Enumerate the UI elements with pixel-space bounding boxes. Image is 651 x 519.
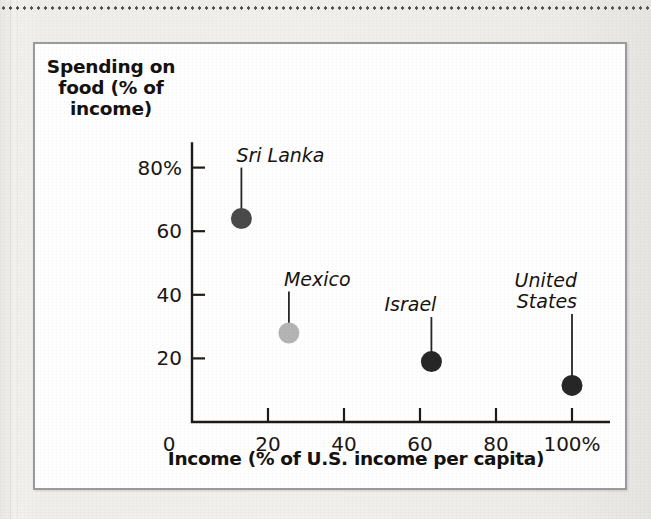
x-tick-label-0: 0 — [134, 432, 204, 456]
page-gutter-line — [10, 0, 11, 519]
page-gutter-line-secondary — [17, 0, 18, 519]
data-point-israel[interactable] — [421, 351, 442, 372]
y-tick-label-40: 40 — [92, 283, 182, 307]
data-point-sri-lanka[interactable] — [231, 208, 252, 229]
point-label-sri-lanka: Sri Lanka — [236, 145, 324, 166]
data-point-mexico[interactable] — [278, 322, 299, 343]
figure-frame: Spending onfood (% ofincome) Income (% o… — [33, 42, 627, 490]
page-background: Spending onfood (% ofincome) Income (% o… — [0, 0, 651, 519]
plot-area: 20406080%020406080100% Sri LankaMexicoIs… — [35, 44, 625, 488]
x-tick-label-40: 40 — [309, 432, 379, 456]
point-label-united-states: UnitedStates — [367, 270, 577, 312]
data-point-united-states[interactable] — [562, 375, 583, 396]
dotted-rule-decoration — [0, 5, 651, 11]
x-tick-label-60: 60 — [385, 432, 455, 456]
x-tick-label-100%: 100% — [537, 432, 607, 456]
x-tick-label-20: 20 — [233, 432, 303, 456]
point-label-mexico: Mexico — [284, 269, 351, 290]
y-tick-label-60: 60 — [92, 219, 182, 243]
x-tick-label-80: 80 — [461, 432, 531, 456]
point-label-sri-lanka-line-1: Sri Lanka — [236, 145, 324, 166]
point-label-united-states-line-2: States — [367, 291, 577, 312]
y-tick-label-20: 20 — [92, 346, 182, 370]
point-label-mexico-line-1: Mexico — [284, 269, 351, 290]
y-tick-label-80%: 80% — [92, 156, 182, 180]
point-label-united-states-line-1: United — [367, 270, 577, 291]
